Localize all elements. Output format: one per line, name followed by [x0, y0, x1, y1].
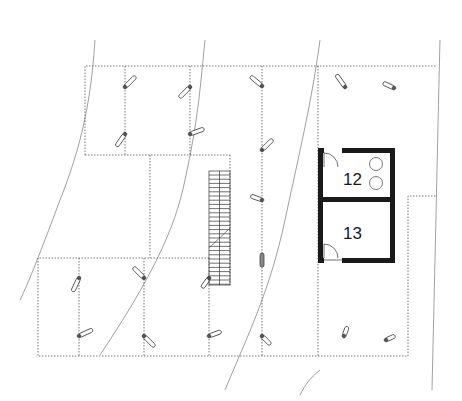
light-fixture-icon — [342, 326, 350, 338]
service-rooms — [318, 148, 395, 263]
staircase — [209, 171, 230, 285]
door-icon — [324, 153, 342, 260]
light-fixture-icon — [200, 275, 211, 289]
light-fixture-icon — [384, 334, 396, 343]
grid-lines — [38, 66, 437, 356]
light-fixture-icon — [259, 333, 272, 346]
light-fixture-icon — [188, 127, 205, 137]
light-fixture-icon — [115, 131, 128, 147]
fixture-circles-icon — [370, 158, 383, 190]
light-fixture-icon — [335, 74, 348, 90]
light-fixture-icon — [122, 75, 137, 90]
room-label-13: 13 — [343, 224, 362, 244]
light-fixture-icon — [259, 138, 274, 153]
light-fixture-icon — [178, 84, 193, 99]
room-label-12: 12 — [343, 170, 362, 190]
light-fixture-icon — [382, 81, 396, 90]
light-fixture-icon — [71, 276, 82, 293]
floor-plan — [0, 0, 462, 401]
light-fixtures — [71, 74, 397, 348]
light-fixture-icon — [132, 266, 147, 281]
light-fixture-icon — [141, 333, 156, 348]
node-icon — [260, 253, 264, 267]
